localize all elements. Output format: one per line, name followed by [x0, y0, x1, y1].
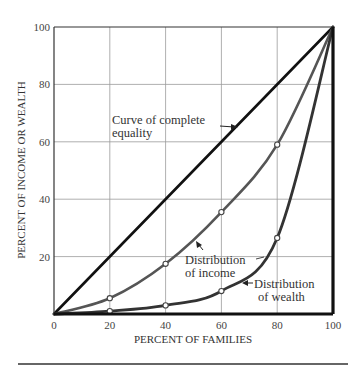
y-tick-label: 80	[39, 78, 51, 90]
data-point-marker	[219, 210, 224, 215]
bottom-rule	[18, 363, 348, 365]
y-tick-label: 100	[34, 21, 51, 33]
annotation-text: Distribution	[185, 253, 246, 267]
y-axis-label: PERCENT OF INCOME OR WEALTH	[15, 81, 27, 259]
data-point-marker	[163, 261, 168, 266]
data-point-marker	[163, 303, 168, 308]
data-point-marker	[275, 235, 280, 240]
x-tick-label: 40	[160, 319, 172, 331]
data-point-marker	[275, 142, 280, 147]
y-tick-label: 60	[39, 136, 51, 148]
lorenz-chart: 02040608010020406080100 PERCENT OF FAMIL…	[0, 0, 355, 366]
leader-line	[256, 257, 264, 259]
annotation-text: Curve of complete	[112, 113, 205, 127]
x-tick-label: 60	[216, 319, 228, 331]
x-tick-label: 20	[104, 319, 116, 331]
annotation-text: of income	[185, 266, 236, 280]
y-tick-label: 40	[39, 193, 51, 205]
data-point-marker	[107, 296, 112, 301]
x-tick-label: 80	[272, 319, 284, 331]
y-tick-label: 20	[39, 251, 51, 263]
annotation-wealth: Distribution of wealth	[242, 277, 315, 304]
annotation-text: equality	[112, 126, 153, 140]
annotation-text: Distribution	[254, 277, 315, 291]
x-axis-label: PERCENT OF FAMILIES	[134, 333, 252, 345]
x-tick-label: 0	[51, 319, 57, 331]
annotation-equality: Curve of complete equality	[112, 113, 238, 140]
x-tick-label: 100	[325, 319, 342, 331]
data-point-marker	[219, 288, 224, 293]
annotation-text: of wealth	[258, 290, 306, 304]
